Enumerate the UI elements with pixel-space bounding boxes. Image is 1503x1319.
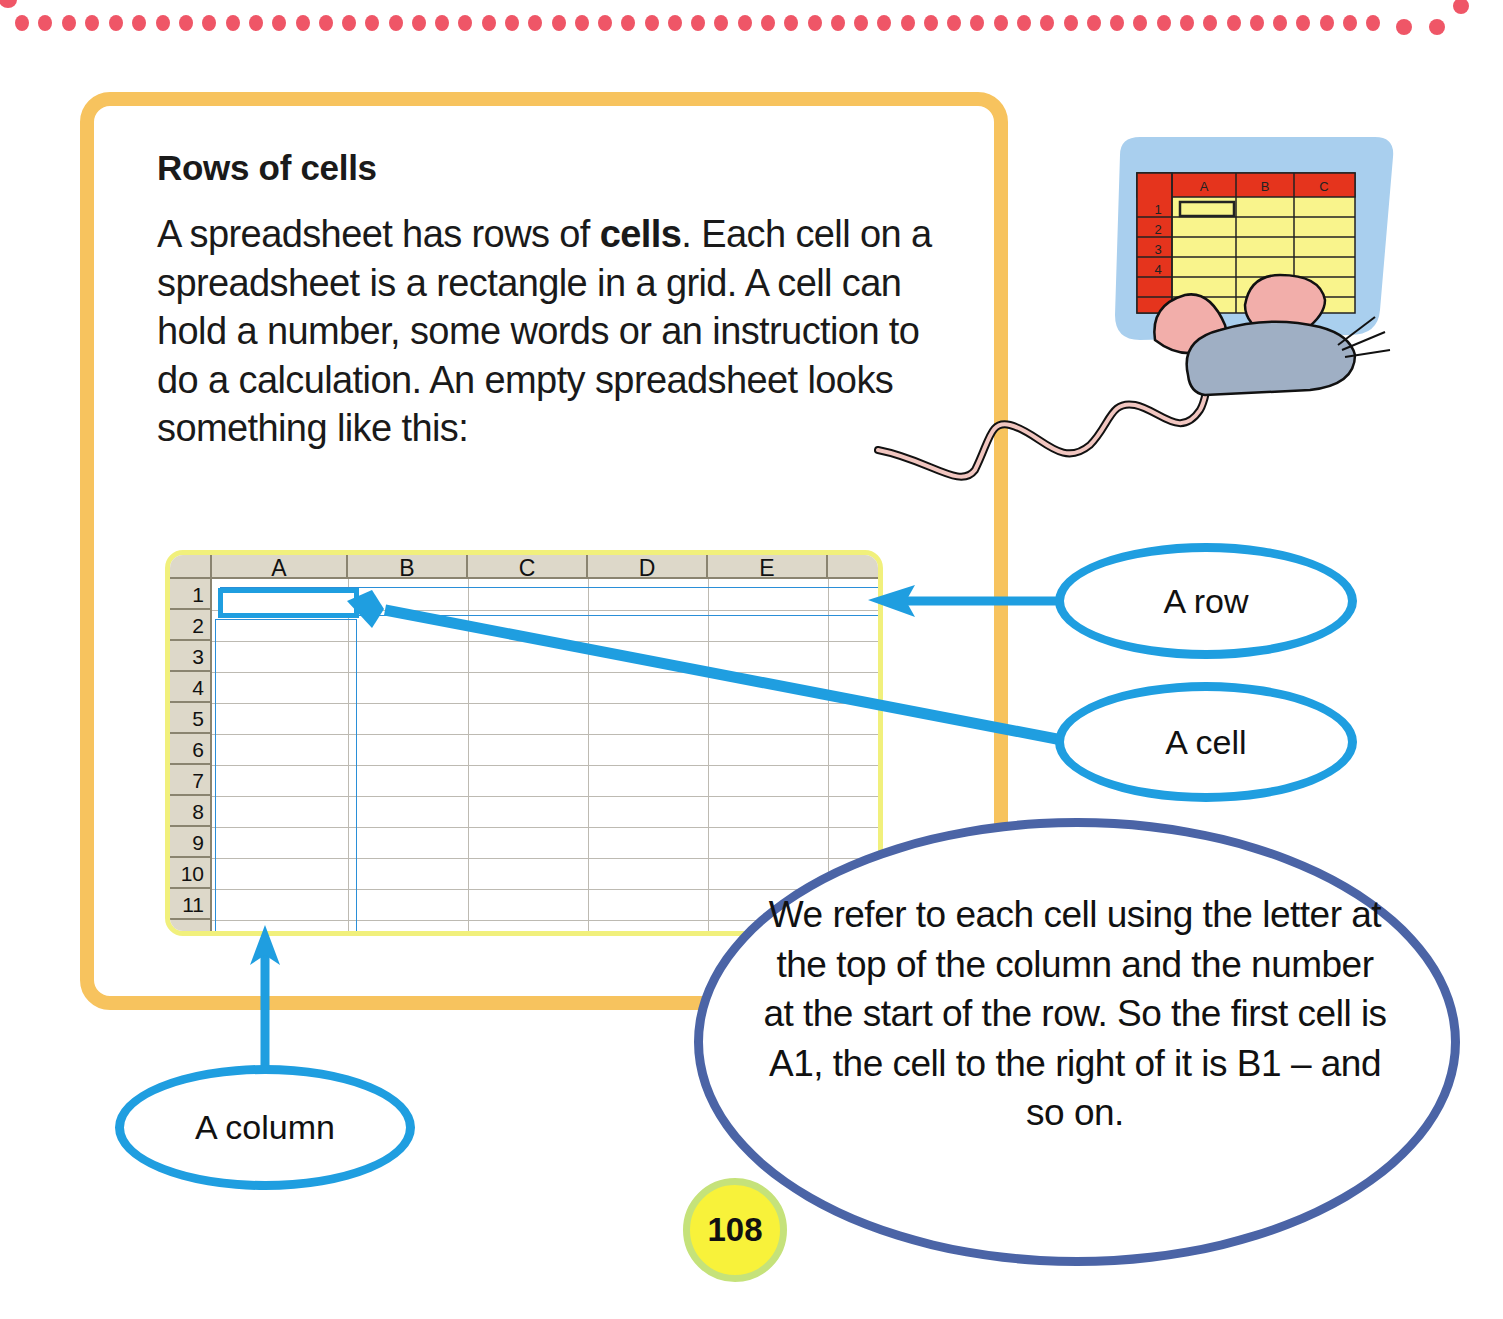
callout-column: A column	[115, 1065, 415, 1190]
callout-row-label: A row	[1163, 582, 1248, 621]
cell-arrow-head-icon	[347, 590, 384, 628]
page-number-badge: 108	[683, 1178, 787, 1282]
callout-cell-label: A cell	[1165, 723, 1246, 762]
callout-column-label: A column	[195, 1108, 335, 1147]
explanation-text: We refer to each cell using the letter a…	[760, 890, 1390, 1138]
callout-cell: A cell	[1055, 682, 1357, 802]
callout-row: A row	[1055, 543, 1357, 659]
page-number: 108	[707, 1211, 762, 1249]
